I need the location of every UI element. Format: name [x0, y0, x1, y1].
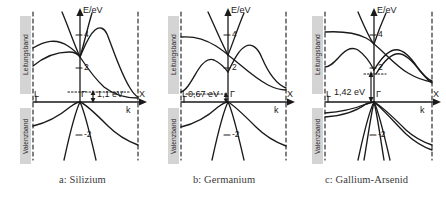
panel-silizium: Leitungsband Valenzband E/eV k L Γ X 4 2…	[0, 0, 150, 172]
band-gap-arrow-up	[91, 90, 96, 95]
conduction-band-label-germanium: Leitungsband	[168, 16, 179, 94]
caption-row: a: Silizium b: Germanium c: Gallium-Arse…	[0, 174, 446, 199]
tick-label-2-silizium: 2	[84, 62, 89, 72]
conduction-band-right-hump-2	[376, 54, 432, 83]
tick-label-2-germanium: 2	[232, 62, 237, 72]
k-axis-label-gallium-arsenid: k	[420, 105, 425, 115]
left-point-label-silizium: L	[34, 89, 39, 99]
valence-band-label-germanium: Valenzband	[168, 108, 179, 164]
conduction-band-steep-left	[358, 12, 374, 44]
k-axis-label-germanium: k	[274, 105, 279, 115]
left-point-label-gallium-arsenid: L	[326, 89, 331, 99]
tick-label-4-gallium-arsenid: 4	[378, 29, 383, 39]
k-axis-arrow	[139, 99, 147, 106]
tick-label-minus2-gallium-arsenid: -2	[378, 129, 386, 139]
conduction-band-steep-left	[208, 12, 228, 55]
tick-label-4-silizium: 4	[84, 29, 89, 39]
tick-label-minus2-silizium: -2	[84, 129, 92, 139]
center-point-label-silizium: Γ	[81, 89, 86, 99]
valence-band-label-silizium: Valenzband	[20, 108, 31, 164]
center-point-label-gallium-arsenid: Γ	[376, 89, 381, 99]
panel-gallium-arsenid: Leitungsband Valenzband E/eV k L Γ X 4 2…	[292, 0, 446, 172]
right-point-label-gallium-arsenid: X	[433, 89, 439, 99]
left-point-label-germanium: L	[182, 89, 187, 99]
k-axis-label-silizium: k	[126, 105, 131, 115]
band-structure-figure: Leitungsband Valenzband E/eV k L Γ X 4 2…	[0, 0, 446, 199]
tick-label-minus2-germanium: -2	[232, 129, 240, 139]
band-gap-label-germanium: 0,67 eV	[188, 89, 219, 99]
center-point-label-germanium: Γ	[230, 89, 235, 99]
caption-germanium: b: Germanium	[193, 174, 255, 185]
k-axis-arrow	[433, 99, 441, 106]
conduction-band-branch-left	[33, 52, 80, 66]
caption-gallium-arsenid: c: Gallium-Arsenid	[325, 174, 408, 185]
energy-axis-label-gallium-arsenid: E/eV	[377, 5, 397, 15]
valence-band-label-gallium-arsenid: Valenzband	[312, 108, 323, 164]
conduction-band-left-hump	[325, 49, 374, 70]
band-gap-label-gallium-arsenid: 1,42 eV	[334, 87, 365, 97]
conduction-band-lower-left	[181, 59, 228, 92]
tick-label-4-germanium: 4	[232, 29, 237, 39]
energy-axis-label-germanium: E/eV	[231, 5, 251, 15]
conduction-band-to-x	[228, 55, 286, 90]
panel-germanium: Leitungsband Valenzband E/eV k L Γ X 4 2…	[148, 0, 298, 172]
valence-band-light	[181, 102, 286, 146]
energy-axis-label-silizium: E/eV	[83, 5, 103, 15]
band-gap-label-silizium: 1,1 eV	[97, 89, 123, 99]
tick-label-2-gallium-arsenid: 2	[378, 62, 383, 72]
right-point-label-silizium: X	[139, 89, 145, 99]
conduction-band-label-gallium-arsenid: Leitungsband	[312, 16, 323, 94]
caption-silizium: a: Silizium	[59, 174, 106, 185]
conduction-band-label-silizium: Leitungsband	[20, 16, 31, 94]
